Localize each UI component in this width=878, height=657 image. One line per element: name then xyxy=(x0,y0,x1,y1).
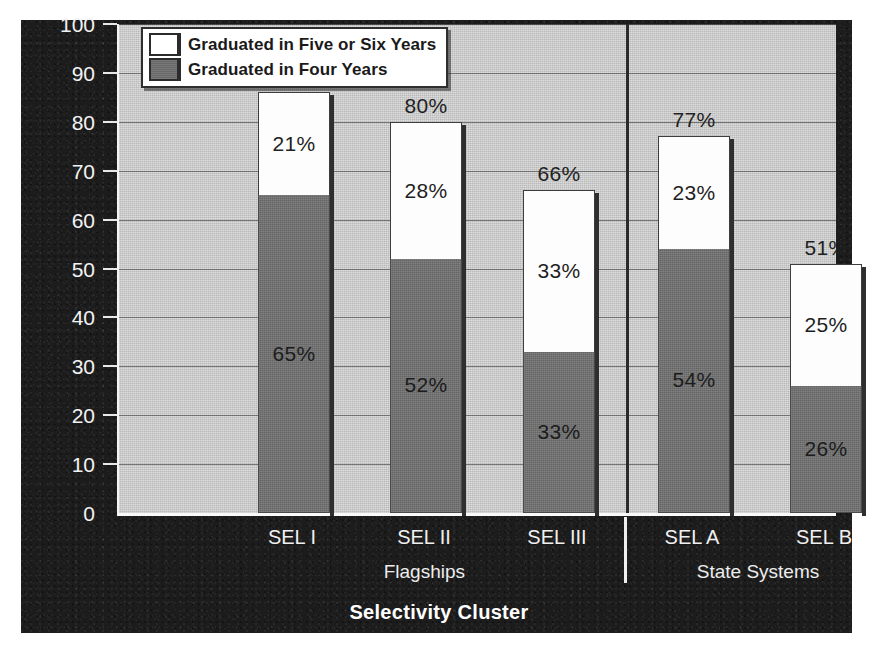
y-tick-mark xyxy=(103,121,117,123)
y-tick-mark xyxy=(103,23,117,25)
bar-segment-five-or-six-years[interactable]: 23% xyxy=(658,136,730,248)
bar-group[interactable]: 33%33%66% xyxy=(523,190,595,513)
bar-shadow xyxy=(462,125,466,516)
bar-shadow xyxy=(595,193,599,516)
bar-segment-label: 52% xyxy=(405,373,448,397)
gridline xyxy=(119,122,836,123)
bar-segment-label: 65% xyxy=(273,342,316,366)
bar-segment-label: 23% xyxy=(673,181,716,205)
bar-segment-five-or-six-years[interactable]: 33% xyxy=(523,190,595,351)
bar-group[interactable]: 26%25%51% xyxy=(790,264,862,513)
y-tick-label: 90 xyxy=(31,62,95,83)
bar-shadow xyxy=(862,267,866,516)
x-group-label: Flagships xyxy=(384,561,465,583)
chart-figure: Graduation Rate (Percent) 01020304050607… xyxy=(0,0,878,657)
bar-shadow xyxy=(730,139,734,516)
x-tick-label: SEL I xyxy=(268,526,316,549)
bar-group[interactable]: 52%28%80% xyxy=(390,122,462,513)
legend-item-five-or-six-years: Graduated in Five or Six Years xyxy=(149,33,436,56)
bar-total-label: 80% xyxy=(405,94,448,118)
bar-segment-five-or-six-years[interactable]: 21% xyxy=(258,92,330,195)
legend-item-four-years: Graduated in Four Years xyxy=(149,58,436,81)
bar-segment-label: 33% xyxy=(538,259,581,283)
y-tick-mark xyxy=(103,414,117,416)
x-axis-title: Selectivity Cluster xyxy=(0,601,878,624)
y-tick-label: 50 xyxy=(31,258,95,279)
cluster-divider xyxy=(626,24,629,513)
bar-group[interactable]: 65%21%86% xyxy=(258,92,330,513)
bar-total-label: 77% xyxy=(673,108,716,132)
y-tick-mark xyxy=(103,463,117,465)
bar-segment-label: 25% xyxy=(805,313,848,337)
bar-segment-five-or-six-years[interactable]: 25% xyxy=(790,264,862,386)
legend-label-four-years: Graduated in Four Years xyxy=(188,60,387,80)
x-tick-label: SEL II xyxy=(397,526,451,549)
y-tick-mark xyxy=(103,268,117,270)
legend-label-five-or-six-years: Graduated in Five or Six Years xyxy=(188,35,436,55)
legend-swatch-gray-icon xyxy=(149,58,179,81)
bar-segment-four-years[interactable]: 65% xyxy=(258,195,330,513)
bar-segment-four-years[interactable]: 52% xyxy=(390,259,462,513)
x-tick-label: SEL A xyxy=(665,526,720,549)
y-tick-label: 40 xyxy=(31,307,95,328)
cluster-divider-axis xyxy=(624,517,627,583)
bar-segment-label: 33% xyxy=(538,420,581,444)
y-axis: 0102030405060708090100 xyxy=(33,24,117,513)
bar-segment-label: 26% xyxy=(805,437,848,461)
y-tick-label: 100 xyxy=(31,14,95,35)
y-tick-mark xyxy=(103,365,117,367)
legend-swatch-white-icon xyxy=(149,33,179,56)
y-tick-mark xyxy=(103,316,117,318)
y-tick-label: 10 xyxy=(31,454,95,475)
x-tick-label: SEL III xyxy=(527,526,586,549)
x-tick-label: SEL B xyxy=(796,526,852,549)
bar-segment-label: 54% xyxy=(673,368,716,392)
y-tick-label: 60 xyxy=(31,209,95,230)
x-group-label: State Systems xyxy=(697,561,820,583)
y-tick-label: 80 xyxy=(31,111,95,132)
bar-segment-five-or-six-years[interactable]: 28% xyxy=(390,122,462,259)
gridline xyxy=(119,24,836,25)
bar-segment-four-years[interactable]: 26% xyxy=(790,386,862,513)
bar-segment-four-years[interactable]: 33% xyxy=(523,352,595,513)
bar-shadow xyxy=(330,95,334,516)
bar-segment-four-years[interactable]: 54% xyxy=(658,249,730,513)
bar-segment-label: 21% xyxy=(273,132,316,156)
y-tick-mark xyxy=(103,219,117,221)
bar-total-label: 66% xyxy=(538,162,581,186)
y-tick-mark xyxy=(103,72,117,74)
y-tick-label: 30 xyxy=(31,356,95,377)
y-tick-label: 70 xyxy=(31,160,95,181)
plot-area: 65%21%86%52%28%80%33%33%66%54%23%77%26%2… xyxy=(117,24,836,516)
bar-total-label: 51% xyxy=(805,236,848,260)
plot-inner: 65%21%86%52%28%80%33%33%66%54%23%77%26%2… xyxy=(119,24,836,513)
bar-group[interactable]: 54%23%77% xyxy=(658,136,730,513)
bar-segment-label: 28% xyxy=(405,179,448,203)
chart-legend: Graduated in Five or Six Years Graduated… xyxy=(141,27,448,88)
y-tick-label: 20 xyxy=(31,405,95,426)
y-tick-mark xyxy=(103,170,117,172)
y-tick-label: 0 xyxy=(31,503,95,524)
